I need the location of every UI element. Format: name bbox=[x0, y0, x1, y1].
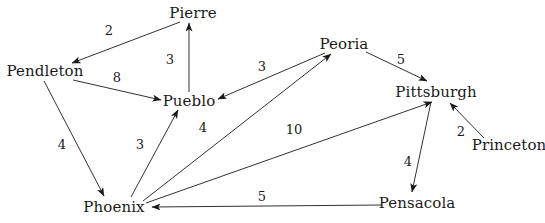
edge-weight-peoria-to-pueblo: 3 bbox=[258, 60, 266, 73]
node-pueblo: Pueblo bbox=[163, 94, 216, 109]
edge-weight-princeton-to-pittsburgh: 2 bbox=[457, 125, 465, 138]
edge-weight-phoenix-to-peoria: 4 bbox=[199, 121, 207, 134]
edge-pittsburgh-to-pensacola bbox=[412, 102, 431, 192]
edge-phoenix-to-pittsburgh bbox=[146, 102, 432, 203]
edge-weight-pendleton-to-pueblo: 8 bbox=[113, 71, 121, 84]
edge-weight-pensacola-to-phoenix: 5 bbox=[258, 190, 266, 203]
edge-phoenix-to-pueblo bbox=[131, 110, 178, 197]
edge-pendleton-to-phoenix bbox=[44, 81, 104, 196]
edge-weight-pittsburgh-to-pensacola: 4 bbox=[404, 155, 412, 168]
edge-peoria-to-pueblo bbox=[218, 53, 325, 99]
edge-weight-phoenix-to-pueblo: 3 bbox=[136, 138, 144, 151]
edge-layer bbox=[0, 0, 545, 223]
edge-weight-phoenix-to-pittsburgh: 10 bbox=[286, 123, 303, 136]
node-pittsburgh: Pittsburgh bbox=[395, 85, 476, 100]
node-phoenix: Phoenix bbox=[83, 200, 144, 215]
weighted-directed-graph-figure: PierrePendletonPuebloPeoriaPittsburghPri… bbox=[0, 0, 545, 223]
edge-paths bbox=[44, 22, 484, 207]
node-pierre: Pierre bbox=[169, 6, 217, 21]
edge-phoenix-to-peoria bbox=[143, 54, 331, 201]
node-pendleton: Pendleton bbox=[7, 64, 84, 79]
edge-princeton-to-pittsburgh bbox=[450, 103, 484, 138]
node-peoria: Peoria bbox=[320, 37, 369, 52]
edge-weight-pueblo-to-pierre: 3 bbox=[166, 53, 174, 66]
node-princeton: Princeton bbox=[472, 138, 545, 153]
edge-pensacola-to-phoenix bbox=[152, 205, 382, 207]
edge-weight-pendleton-to-phoenix: 4 bbox=[58, 138, 66, 151]
edge-pierre-to-pendleton bbox=[72, 22, 180, 63]
edge-weight-pierre-to-pendleton: 2 bbox=[105, 24, 113, 37]
edge-weight-peoria-to-pittsburgh: 5 bbox=[397, 53, 405, 66]
node-pensacola: Pensacola bbox=[379, 196, 456, 211]
